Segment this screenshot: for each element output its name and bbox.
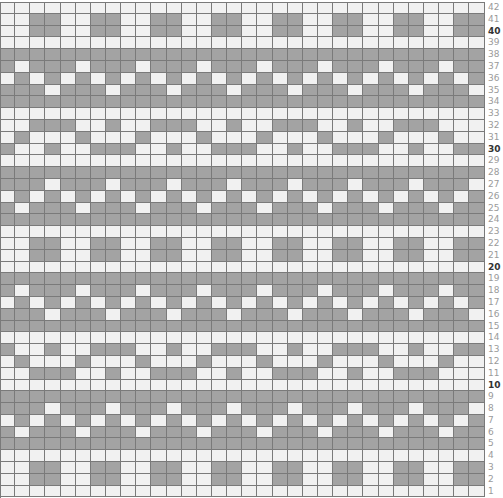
stitch-cell-light	[424, 380, 439, 392]
stitch-cell-light	[212, 108, 227, 120]
stitch-cell-light	[106, 37, 121, 49]
chart-row: 7	[0, 415, 485, 427]
stitch-cell-light	[151, 486, 166, 498]
stitch-cell-dark	[91, 26, 106, 38]
stitch-cell-dark	[363, 403, 378, 415]
stitch-cell-light	[333, 262, 348, 274]
stitch-cell-light	[439, 450, 454, 462]
stitch-cell-dark	[45, 344, 60, 356]
stitch-cell-light	[136, 120, 151, 132]
stitch-cell-dark	[0, 273, 15, 285]
stitch-cell-light	[303, 108, 318, 120]
stitch-cell-dark	[0, 285, 15, 297]
stitch-cell-dark	[167, 144, 182, 156]
stitch-cell-light	[288, 132, 303, 144]
stitch-cell-light	[242, 73, 257, 85]
stitch-cell-dark	[409, 438, 424, 450]
stitch-cell-light	[242, 191, 257, 203]
stitch-cell-dark	[0, 61, 15, 73]
stitch-cell-dark	[303, 321, 318, 333]
stitch-cell-light	[0, 415, 15, 427]
stitch-cell-light	[363, 462, 378, 474]
stitch-cell-light	[318, 332, 333, 344]
stitch-cell-dark	[454, 309, 469, 321]
stitch-cell-light	[394, 486, 409, 498]
stitch-cell-dark	[348, 73, 363, 85]
stitch-cell-dark	[61, 309, 76, 321]
stitch-cell-light	[76, 462, 91, 474]
stitch-cell-dark	[303, 285, 318, 297]
stitch-cell-light	[439, 155, 454, 167]
stitch-cell-light	[273, 415, 288, 427]
stitch-cell-dark	[106, 285, 121, 297]
stitch-cell-dark	[91, 214, 106, 226]
stitch-cell-dark	[273, 368, 288, 380]
stitch-cell-dark	[439, 132, 454, 144]
stitch-cell-dark	[394, 368, 409, 380]
stitch-cell-light	[288, 37, 303, 49]
stitch-cell-dark	[348, 415, 363, 427]
stitch-cell-dark	[182, 403, 197, 415]
stitch-cell-dark	[30, 49, 45, 61]
row-number-label: 32	[488, 120, 503, 132]
stitch-cell-light	[121, 120, 136, 132]
stitch-cell-dark	[348, 427, 363, 439]
stitch-cell-light	[409, 450, 424, 462]
stitch-cell-light	[30, 108, 45, 120]
stitch-cell-dark	[227, 391, 242, 403]
stitch-cell-light	[454, 486, 469, 498]
stitch-cell-light	[242, 356, 257, 368]
stitch-cell-light	[439, 26, 454, 38]
stitch-cell-light	[303, 486, 318, 498]
stitch-cell-dark	[151, 238, 166, 250]
stitch-cell-light	[197, 2, 212, 14]
stitch-cell-light	[182, 191, 197, 203]
stitch-cell-light	[182, 450, 197, 462]
stitch-cell-dark	[136, 273, 151, 285]
stitch-cell-light	[454, 332, 469, 344]
stitch-cell-dark	[45, 415, 60, 427]
stitch-cell-light	[333, 297, 348, 309]
stitch-cell-dark	[363, 344, 378, 356]
chart-row: 42	[0, 2, 485, 14]
stitch-cell-dark	[257, 73, 272, 85]
stitch-cell-light	[303, 73, 318, 85]
stitch-cell-dark	[409, 26, 424, 38]
stitch-cell-dark	[167, 462, 182, 474]
stitch-cell-dark	[76, 132, 91, 144]
stitch-cell-light	[379, 462, 394, 474]
stitch-cell-dark	[288, 26, 303, 38]
stitch-cell-light	[379, 120, 394, 132]
stitch-cell-dark	[409, 144, 424, 156]
stitch-cell-dark	[469, 203, 484, 215]
stitch-cell-dark	[61, 179, 76, 191]
row-number-label: 39	[488, 37, 503, 49]
stitch-cell-light	[303, 2, 318, 14]
stitch-cell-dark	[394, 273, 409, 285]
stitch-cell-light	[318, 262, 333, 274]
stitch-cell-dark	[91, 144, 106, 156]
stitch-cell-dark	[197, 191, 212, 203]
stitch-cell-light	[363, 250, 378, 262]
stitch-cell-light	[242, 297, 257, 309]
stitch-cell-light	[439, 203, 454, 215]
stitch-cell-light	[394, 226, 409, 238]
stitch-cell-light	[318, 226, 333, 238]
stitch-cell-light	[363, 120, 378, 132]
stitch-cell-light	[273, 191, 288, 203]
stitch-cell-dark	[379, 438, 394, 450]
stitch-cell-light	[212, 486, 227, 498]
stitch-cell-light	[30, 155, 45, 167]
stitch-cell-dark	[167, 49, 182, 61]
stitch-cell-light	[212, 120, 227, 132]
stitch-cell-light	[333, 2, 348, 14]
stitch-cell-dark	[167, 238, 182, 250]
stitch-cell-light	[197, 238, 212, 250]
stitch-cell-light	[439, 250, 454, 262]
stitch-cell-dark	[212, 14, 227, 26]
stitch-cell-dark	[242, 96, 257, 108]
stitch-cell-dark	[288, 14, 303, 26]
stitch-cell-light	[136, 285, 151, 297]
stitch-cell-light	[45, 403, 60, 415]
stitch-cell-dark	[227, 96, 242, 108]
